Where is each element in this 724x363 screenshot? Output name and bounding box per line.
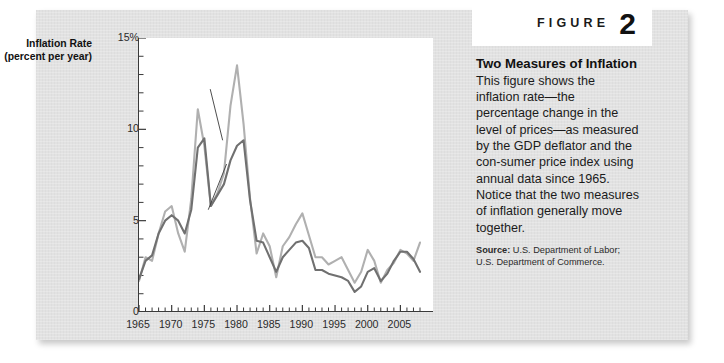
y-axis-title: Inflation Rate (percent per year) [0, 37, 92, 63]
caption-body: This figure shows the inflation rate—the… [476, 73, 640, 237]
plot-box [138, 38, 433, 312]
caption-title: Two Measures of Inflation [476, 56, 640, 72]
y-tick-label-5: 5 [103, 214, 139, 226]
figure-word-label: FIGURE [537, 16, 609, 30]
caption-title-line-1: Two Measures [476, 56, 566, 71]
y-axis-title-line-1: Inflation Rate [0, 37, 92, 50]
y-tick-label-10: 10 [103, 122, 139, 134]
chart-area: Inflation Rate (percent per year) 051015… [98, 38, 448, 314]
figure-number: 2 [619, 9, 636, 39]
caption-source: Source: U.S. Department of Labor; U.S. D… [476, 245, 640, 269]
y-tick-label-15: 15% [103, 31, 139, 43]
y-tick-label-0: 0 [103, 305, 139, 317]
figure-root: FIGURE 2 Two Measures of Inflation This … [0, 0, 724, 363]
caption-title-line-2: of Inflation [570, 56, 637, 71]
y-axis-title-line-2: (percent per year) [0, 50, 92, 63]
figure-caption: Two Measures of Inflation This figure sh… [476, 56, 640, 269]
inflation-line-chart [139, 38, 434, 312]
figure-header: FIGURE 2 [472, 0, 652, 46]
caption-source-label: Source: [476, 245, 510, 255]
x-tick-label-2005: 2005 [379, 318, 419, 330]
